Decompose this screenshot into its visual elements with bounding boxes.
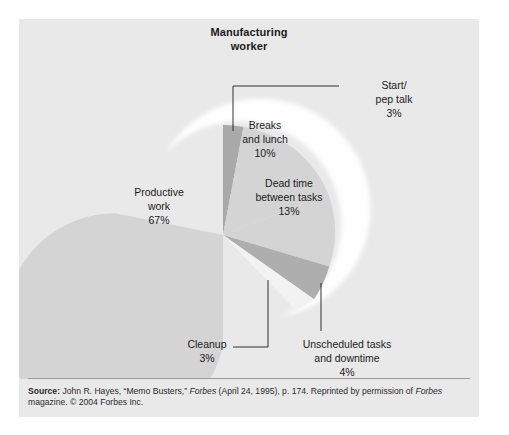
source-text-2: (April 24, 1995), p. 174. Reprinted by p…: [216, 386, 415, 396]
label-dead-time-value: 13%: [224, 204, 354, 218]
label-start-pep-talk: Start/ pep talk 3%: [344, 78, 444, 120]
source-italic-1: Forbes: [189, 386, 216, 396]
label-breaks-and-lunch-line-2: and lunch: [215, 132, 315, 146]
chart-panel: Manufacturing worker: [19, 19, 479, 417]
label-breaks-and-lunch-value: 10%: [215, 146, 315, 160]
label-cleanup-value: 3%: [165, 351, 249, 365]
source-label: Source:: [28, 386, 60, 396]
label-breaks-and-lunch: Breaks and lunch 10%: [215, 118, 315, 160]
label-unscheduled-tasks-line-2: and downtime: [281, 351, 413, 365]
label-cleanup-line-1: Cleanup: [165, 337, 249, 351]
source-text-1: John R. Hayes, “Memo Busters,”: [60, 386, 189, 396]
label-productive-work-value: 67%: [109, 213, 209, 227]
label-dead-time-line-2: between tasks: [224, 190, 354, 204]
label-start-pep-talk-line-2: pep talk: [344, 92, 444, 106]
label-unscheduled-tasks-value: 4%: [281, 365, 413, 379]
label-productive-work-line-2: work: [109, 199, 209, 213]
source-divider: [28, 378, 470, 379]
pie-chart-area: Manufacturing worker: [19, 19, 479, 379]
label-productive-work: Productive work 67%: [109, 185, 209, 227]
label-unscheduled-tasks: Unscheduled tasks and downtime 4%: [281, 337, 413, 379]
label-unscheduled-tasks-line-1: Unscheduled tasks: [281, 337, 413, 351]
label-dead-time: Dead time between tasks 13%: [224, 176, 354, 218]
source-italic-2: Forbes: [415, 386, 442, 396]
source-note: Source: John R. Hayes, “Memo Busters,” F…: [28, 386, 472, 409]
label-dead-time-line-1: Dead time: [224, 176, 354, 190]
label-breaks-and-lunch-line-1: Breaks: [215, 118, 315, 132]
source-text-3: magazine. © 2004 Forbes Inc.: [28, 397, 143, 407]
label-productive-work-line-1: Productive: [109, 185, 209, 199]
label-start-pep-talk-value: 3%: [344, 106, 444, 120]
label-start-pep-talk-line-1: Start/: [344, 78, 444, 92]
label-cleanup: Cleanup 3%: [165, 337, 249, 365]
figure-container: Manufacturing worker: [0, 0, 509, 435]
